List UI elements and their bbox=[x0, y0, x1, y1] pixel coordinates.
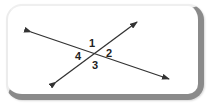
intersecting-lines-diagram: 1 2 3 4 bbox=[0, 0, 211, 104]
line-a bbox=[31, 32, 169, 79]
angle-label-3: 3 bbox=[92, 59, 98, 71]
angle-label-4: 4 bbox=[75, 50, 82, 62]
angle-label-2: 2 bbox=[106, 47, 112, 59]
angle-label-1: 1 bbox=[89, 37, 95, 49]
line-b bbox=[56, 22, 137, 82]
